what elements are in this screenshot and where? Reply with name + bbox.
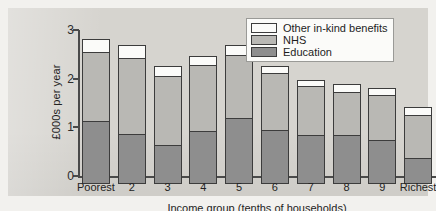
bar-segment-other (333, 84, 361, 93)
x-tick-label-2: 2 (129, 181, 135, 193)
y-tick-label-2: 2 (67, 73, 74, 85)
bar-segment-other (404, 107, 432, 116)
bar-segment-education (189, 131, 217, 184)
x-tick-label-3: 3 (164, 181, 170, 193)
legend-label-other: Other in-kind benefits (283, 22, 388, 34)
bar-segment-other (297, 80, 325, 87)
legend-swatch-other (251, 23, 277, 33)
bar-richest (404, 38, 432, 184)
x-axis-title: Income group (tenths of households) (78, 202, 436, 211)
bar-segment-nhs (154, 76, 182, 146)
bar-segment-education (154, 145, 182, 184)
x-tick-label-6: 6 (272, 181, 278, 193)
bar-segment-other (368, 88, 396, 96)
bar-segment-other (189, 56, 217, 66)
bar-segment-education (297, 135, 325, 184)
bar-segment-other (154, 66, 182, 77)
legend-item-nhs: NHS (251, 34, 388, 46)
chart-legend: Other in-kind benefitsNHSEducation (246, 18, 394, 62)
bar-segment-other (118, 45, 146, 59)
x-tick-label-9: 9 (379, 181, 385, 193)
y-tick-label-1: 1 (67, 121, 74, 133)
y-axis-title: £000s per year (50, 65, 62, 140)
x-tick-label-poorest: Poorest (77, 181, 115, 193)
bar-segment-education (333, 135, 361, 184)
bar-segment-nhs (297, 86, 325, 137)
bar-segment-nhs (189, 65, 217, 132)
bar-segment-nhs (404, 115, 432, 159)
bar-3 (154, 38, 182, 184)
bar-segment-nhs (368, 95, 396, 141)
bar-segment-education (225, 118, 253, 184)
bar-segment-nhs (118, 58, 146, 135)
x-tick-label-7: 7 (308, 181, 314, 193)
bar-poorest (82, 38, 110, 184)
x-tick-label-4: 4 (200, 181, 206, 193)
bar-segment-nhs (225, 55, 253, 119)
bar-segment-education (261, 130, 289, 184)
bar-segment-other (261, 66, 289, 74)
x-tick-label-8: 8 (343, 181, 349, 193)
y-tick-label-0: 0 (67, 170, 74, 182)
bar-segment-education (118, 134, 146, 184)
bar-segment-nhs (261, 73, 289, 131)
bar-segment-education (82, 121, 110, 184)
legend-item-other: Other in-kind benefits (251, 22, 388, 34)
bar-segment-nhs (333, 92, 361, 137)
legend-label-education: Education (283, 46, 332, 58)
y-axis-line (78, 30, 80, 177)
figure-panel: 0123 Poorest23456789Richest £000s per ye… (8, 8, 428, 196)
x-tick-label-richest: Richest (400, 181, 436, 193)
x-tick-label-5: 5 (236, 181, 242, 193)
legend-label-nhs: NHS (283, 34, 306, 46)
legend-swatch-education (251, 47, 277, 57)
bar-segment-nhs (82, 52, 110, 123)
bar-segment-other (82, 39, 110, 52)
bar-4 (189, 38, 217, 184)
bar-2 (118, 38, 146, 184)
bar-segment-education (368, 140, 396, 184)
y-tick-label-3: 3 (67, 24, 74, 36)
legend-swatch-nhs (251, 35, 277, 45)
legend-item-education: Education (251, 46, 388, 58)
